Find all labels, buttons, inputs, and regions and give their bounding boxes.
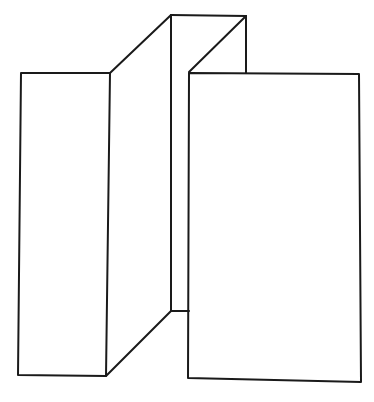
left-panel-side-bottom (106, 311, 171, 376)
right-panel-front (188, 73, 361, 382)
folding-screen-svg (0, 0, 374, 402)
left-panel-front (18, 73, 110, 376)
middle-top-edge (171, 15, 246, 16)
left-panel-side-top (110, 15, 171, 73)
middle-diagonal (189, 16, 246, 72)
folding-screen-drawing (0, 0, 374, 402)
